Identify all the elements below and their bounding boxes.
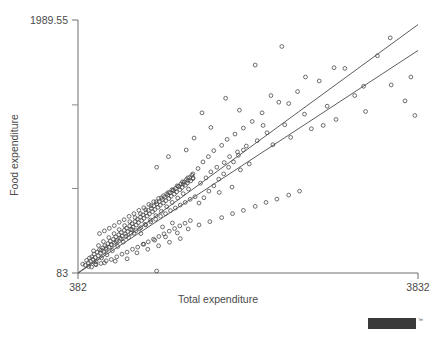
x-tick-label: 382 — [69, 281, 87, 293]
figure-background — [0, 0, 436, 339]
scatter-plot-figure: 831989.55 Food expenditure 3823832 Total… — [0, 0, 436, 339]
logo-wordmark: stata — [377, 317, 408, 329]
y-axis-title: Food expenditure — [8, 114, 20, 196]
y-tick-label: 1989.55 — [30, 14, 68, 26]
x-axis-title: Total expenditure — [178, 293, 258, 305]
x-tick-label: 3832 — [406, 281, 430, 293]
logo-trademark: ™ — [418, 317, 423, 323]
y-tick-label: 83 — [56, 267, 68, 279]
stata-logo: stata ™ — [368, 316, 426, 331]
